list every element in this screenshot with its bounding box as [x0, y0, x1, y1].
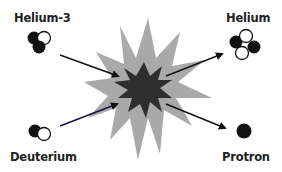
helium3-nucleus-icon [28, 32, 51, 54]
arrow-center-to-helium [166, 54, 222, 76]
protron-particle-icon [237, 124, 252, 139]
helium-label: Helium [226, 11, 270, 25]
fusion-diagram: Helium-3 Helium Deuterium Protron [0, 0, 282, 172]
fusion-diagram-graphic [0, 0, 282, 172]
arrow-deuterium-to-center [60, 104, 117, 126]
deuterium-label: Deuterium [10, 150, 77, 164]
helium-nucleus-icon [230, 30, 261, 60]
deuterium-nucleus-icon [29, 125, 51, 141]
protron-label: Protron [222, 150, 270, 164]
helium3-label: Helium-3 [14, 11, 71, 25]
